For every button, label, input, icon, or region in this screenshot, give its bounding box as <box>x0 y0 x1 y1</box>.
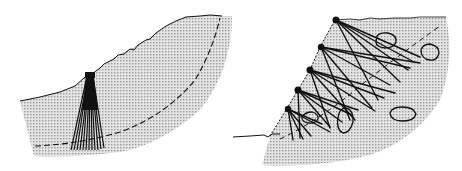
left-slope-panel <box>20 15 232 157</box>
anchor-head-2 <box>295 87 302 94</box>
right-slope-panel <box>233 17 449 166</box>
anchor-head-3 <box>307 67 314 74</box>
anchor-head-4 <box>318 44 324 50</box>
anchor-head-5 <box>333 17 340 24</box>
diagram-canvas <box>0 0 462 171</box>
left-soil-mass <box>20 15 232 157</box>
diagram-svg <box>0 0 462 171</box>
anchor-head-1 <box>285 106 291 112</box>
pile-cap <box>85 72 95 78</box>
